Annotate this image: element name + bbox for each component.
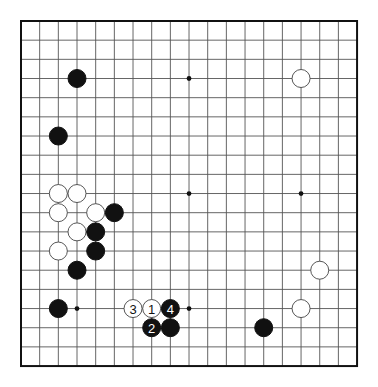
black-stone [49,127,67,145]
white-stone [49,185,67,203]
star-point [187,306,192,311]
white-stone [68,185,86,203]
white-stone [292,70,310,88]
go-board: 3142 [0,0,378,387]
white-stone [311,261,329,279]
white-stone [49,204,67,222]
move-number-label: 4 [167,302,174,317]
move-number-label: 2 [148,321,155,336]
black-stone [87,223,105,241]
black-stone [161,319,179,337]
black-stone [105,204,123,222]
move-number-label: 3 [129,302,136,317]
white-stone [87,204,105,222]
star-point [75,306,80,311]
white-stone [68,223,86,241]
go-board-svg: 3142 [0,0,378,387]
white-stone [49,242,67,260]
black-stone [49,300,67,318]
star-point [187,76,192,81]
white-stone [292,300,310,318]
black-stone [87,242,105,260]
black-stone [68,70,86,88]
star-point [187,191,192,196]
move-number-label: 1 [148,302,155,317]
black-stone [68,261,86,279]
star-point [299,191,304,196]
black-stone [255,319,273,337]
